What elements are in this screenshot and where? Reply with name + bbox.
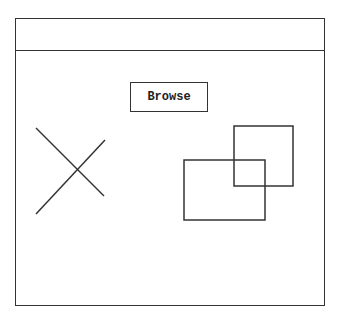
rectangle-back xyxy=(234,126,293,186)
image-placeholder-x-icon xyxy=(36,128,105,214)
wireframe-shapes xyxy=(0,0,340,323)
rectangle-front xyxy=(184,160,265,220)
